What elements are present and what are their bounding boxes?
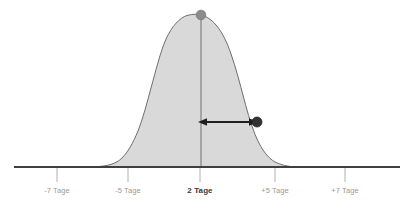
bell-curve-chart: -7 Tage -5 Tage 2 Tage +5 Tage +7 Tage (0, 0, 412, 213)
axis-tick-marks (57, 168, 345, 182)
bell-curve-area (93, 14, 295, 167)
offset-marker-dot (252, 117, 262, 127)
axis-label-plus-5: +5 Tage (261, 186, 288, 195)
axis-label-minus-7: -7 Tage (44, 186, 70, 195)
axis-label-minus-5: -5 Tage (115, 186, 141, 195)
axis-label-plus-7: +7 Tage (331, 186, 358, 195)
chart-canvas (0, 0, 412, 213)
axis-label-center: 2 Tage (187, 186, 212, 195)
peak-marker-dot (196, 10, 206, 20)
